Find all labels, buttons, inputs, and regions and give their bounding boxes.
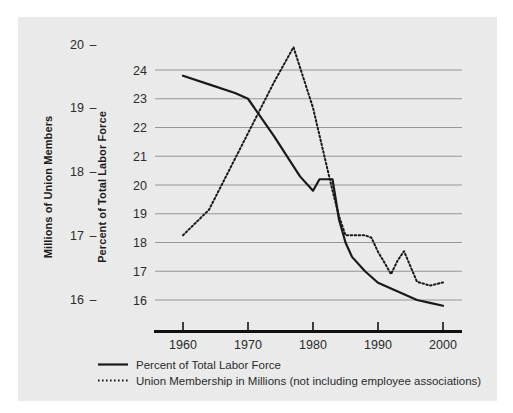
right-axis: Percent of Total Labor Force 24232221201… (96, 64, 147, 308)
x-axis-tick-label: 1970 (234, 338, 262, 352)
right-axis-tick-label: 20 (133, 179, 147, 193)
union-membership-chart: 19601970198019902000 Millions of Union M… (0, 0, 513, 413)
x-axis-tick-label: 1990 (364, 338, 392, 352)
left-axis-tick-label: 18 (70, 165, 84, 179)
left-axis-title: Millions of Union Members (42, 116, 54, 258)
series-union-membership-millions (183, 47, 443, 285)
x-axis-tick-label: 1960 (169, 338, 197, 352)
right-axis-tick-label: 19 (133, 207, 147, 221)
right-axis-title: Percent of Total Labor Force (96, 111, 108, 263)
series-group (183, 47, 443, 306)
chart-legend: Percent of Total Labor Force Union Membe… (98, 359, 481, 387)
right-axis-tick-label: 17 (133, 265, 147, 279)
left-axis-tick-label: 17 (70, 229, 84, 243)
legend-label-membership: Union Membership in Millions (not includ… (136, 375, 481, 387)
left-axis-tick-marker: – (90, 38, 97, 52)
right-axis-tick-label: 18 (133, 236, 147, 250)
left-axis-tick-label: 19 (70, 101, 84, 115)
right-axis-tick-label: 23 (133, 92, 147, 106)
x-axis-tick-label: 1980 (299, 338, 327, 352)
left-axis: Millions of Union Members 2019181716 –––… (42, 38, 97, 307)
legend-label-percent: Percent of Total Labor Force (136, 359, 281, 371)
right-axis-tick-label: 16 (133, 294, 147, 308)
right-axis-tick-label: 22 (133, 121, 147, 135)
left-axis-tick-label: 16 (70, 293, 84, 307)
right-axis-tick-label: 24 (133, 64, 147, 78)
left-axis-tick-label: 20 (70, 38, 84, 52)
x-axis: 19601970198019902000 (154, 322, 462, 352)
left-axis-tick-marker: – (90, 293, 97, 307)
x-axis-tick-label: 2000 (429, 338, 457, 352)
right-axis-tick-label: 21 (133, 150, 147, 164)
